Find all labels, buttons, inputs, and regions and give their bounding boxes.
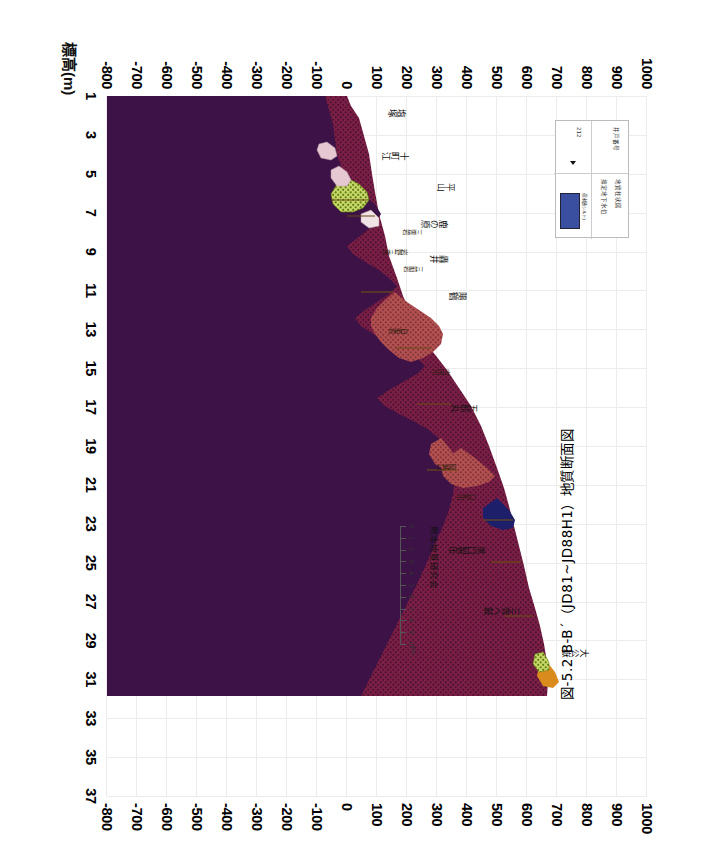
elevation-tick-label: 600 bbox=[519, 796, 535, 826]
place-label: 轟井 bbox=[430, 252, 448, 261]
scale-bar-tick-label: 9 bbox=[408, 630, 415, 634]
elevation-tick-label: 900 bbox=[609, 796, 625, 826]
figure-page: 塩塚十町江平山鹿の原轟井陽鶴五郎丸黒口製缶三舎ヘ鼓大公嶽 岩野三舎三舎岩三前岩白… bbox=[0, 0, 722, 857]
legend-sample-number: 212 bbox=[576, 127, 582, 138]
distance-tick-label: 21 bbox=[83, 477, 99, 493]
elevation-tick-label: -200 bbox=[279, 796, 295, 831]
distance-tick-label: 27 bbox=[83, 593, 99, 609]
distance-tick-label: 35 bbox=[83, 749, 99, 765]
place-label: 黒口製缶 bbox=[450, 544, 486, 553]
legend-divider-v bbox=[554, 173, 628, 174]
distance-tick-label: 3 bbox=[83, 130, 99, 138]
distance-tick-label: 37 bbox=[83, 788, 99, 804]
elevation-axis-title: 標高(m) bbox=[60, 42, 81, 95]
formation-label: 阿蘇口 bbox=[439, 462, 457, 471]
elevation-tick-label: -700 bbox=[129, 796, 145, 831]
elevation-tick-label: -800 bbox=[99, 61, 115, 96]
scale-bar-tick-label: 3 bbox=[408, 559, 415, 563]
elevation-tick-label: -500 bbox=[189, 61, 205, 96]
elevation-tick-label: 200 bbox=[399, 796, 415, 826]
elevation-tick-label: 500 bbox=[489, 796, 505, 826]
scale-bar-tick bbox=[400, 596, 406, 597]
organization-name: 熊本地質研究会 bbox=[429, 526, 441, 589]
legend-swatch-caption: 帯水層(シルト) bbox=[582, 193, 588, 220]
distance-tick-label: 29 bbox=[83, 632, 99, 648]
scale-bar-tick-label: 0 bbox=[408, 524, 415, 528]
figure-caption: 図-5.2 B-B´（JD81~JD88H1）地質断面図 bbox=[556, 429, 576, 700]
distance-tick-label: 31 bbox=[83, 671, 99, 687]
legend-divider-h bbox=[591, 121, 592, 239]
distance-tick-label: 11 bbox=[83, 283, 99, 298]
elevation-tick-label: 800 bbox=[579, 796, 595, 826]
legend-swatch-aquifer bbox=[560, 193, 580, 229]
place-label: 五郎丸 bbox=[451, 402, 478, 411]
scale-bar-tick bbox=[400, 585, 406, 586]
elevation-tick-label: 600 bbox=[519, 65, 535, 95]
formation-label: 三舎岩 bbox=[404, 227, 422, 236]
elevation-tick-label: 800 bbox=[579, 65, 595, 95]
scale-bar: 012345678910 km bbox=[393, 526, 411, 644]
place-label: 鹿の原 bbox=[421, 217, 448, 226]
scale-bar-tick bbox=[400, 620, 406, 621]
scale-bar-tick-label: 6 bbox=[408, 594, 415, 598]
distance-tick-label: 33 bbox=[83, 710, 99, 726]
elevation-tick-label: 300 bbox=[429, 796, 445, 826]
scale-bar-tick bbox=[400, 573, 406, 574]
legend-label-columnar-section: 地質柱状図 bbox=[614, 179, 622, 209]
elevation-tick-label: 500 bbox=[489, 65, 505, 95]
distance-tick-label: 5 bbox=[83, 169, 99, 177]
elevation-tick-label: 700 bbox=[549, 796, 565, 826]
elevation-tick-label: -300 bbox=[249, 796, 265, 831]
elevation-tick-label: -600 bbox=[159, 796, 175, 831]
scale-bar-tick-label: 1 bbox=[408, 535, 415, 539]
formation-label: 岩野三舎 bbox=[385, 247, 409, 256]
legend-box: 井戸番号 212 地質柱状図 推定地下水位 帯水層(シルト) bbox=[555, 120, 629, 238]
elevation-tick-label: 1000 bbox=[639, 57, 655, 95]
elevation-tick-label: 400 bbox=[459, 65, 475, 95]
scale-bar-tick-label: 7 bbox=[408, 606, 415, 610]
elevation-tick-label: 0 bbox=[339, 81, 355, 96]
scale-bar-tick-label: 4 bbox=[408, 571, 415, 575]
plot-wrapper: 塩塚十町江平山鹿の原轟井陽鶴五郎丸黒口製缶三舎ヘ鼓大公嶽 岩野三舎三舎岩三前岩白… bbox=[41, 34, 681, 824]
scale-bar-tick bbox=[400, 644, 406, 645]
scale-bar-tick bbox=[400, 608, 406, 609]
elevation-tick-label: -400 bbox=[219, 796, 235, 831]
elevation-tick-label: 1000 bbox=[639, 796, 655, 834]
elevation-tick-label: -800 bbox=[99, 796, 115, 831]
distance-tick-label: 25 bbox=[83, 554, 99, 570]
scale-bar-tick bbox=[400, 549, 406, 550]
elevation-tick-label: 0 bbox=[339, 796, 355, 811]
elevation-tick-label: -700 bbox=[129, 61, 145, 96]
scale-bar-tick bbox=[400, 526, 406, 527]
scale-bar-tick-label: 2 bbox=[408, 547, 415, 551]
elevation-tick-label: 300 bbox=[429, 65, 445, 95]
formation-label: 内田川 bbox=[433, 367, 451, 376]
elevation-tick-label: -100 bbox=[309, 796, 325, 831]
place-label: 平山 bbox=[438, 181, 456, 190]
distance-tick-label: 9 bbox=[83, 247, 99, 255]
place-label: 陽鶴 bbox=[450, 289, 468, 298]
elevation-tick-label: -400 bbox=[219, 61, 235, 96]
scale-bar-tick bbox=[400, 561, 406, 562]
place-label: 十町江 bbox=[382, 149, 409, 158]
elevation-tick-label: -200 bbox=[279, 61, 295, 96]
formation-label: 口蛇山 bbox=[458, 492, 476, 501]
scale-bar-tick-label: 5 bbox=[408, 583, 415, 587]
legend-pointer-icon bbox=[570, 161, 576, 165]
scale-bar-unit: km bbox=[410, 646, 417, 655]
legend-label-groundwater-level: 推定地下水位 bbox=[600, 179, 608, 215]
elevation-tick-label: 900 bbox=[609, 65, 625, 95]
distance-tick-label: 17 bbox=[83, 399, 99, 415]
elevation-tick-label: 700 bbox=[549, 65, 565, 95]
distance-tick-label: 1 bbox=[83, 92, 99, 100]
legend-label-well-number: 井戸番号 bbox=[612, 127, 620, 151]
distance-tick-label: 15 bbox=[83, 360, 99, 376]
distance-tick-label: 7 bbox=[83, 208, 99, 216]
scale-bar-tick-label: 8 bbox=[408, 618, 415, 622]
distance-tick-label: 19 bbox=[83, 438, 99, 454]
scale-bar-tick bbox=[400, 632, 406, 633]
elevation-tick-label: -500 bbox=[189, 796, 205, 831]
elevation-tick-label: -100 bbox=[309, 61, 325, 96]
place-label: 三舎ヘ鼓 bbox=[484, 604, 520, 613]
elevation-tick-label: -600 bbox=[159, 61, 175, 96]
